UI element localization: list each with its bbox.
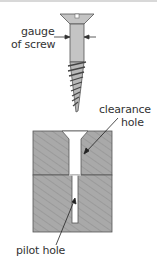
screw-icon xyxy=(60,14,94,112)
clearance-label-line2: hole xyxy=(121,117,144,129)
gauge-label-line2: of screw xyxy=(11,39,55,51)
pilot-hole-label: pilot hole xyxy=(16,245,65,257)
gauge-label-line1: gauge xyxy=(21,26,54,38)
clearance-label-line1: clearance xyxy=(99,104,151,116)
upper-block xyxy=(33,131,112,175)
lower-block xyxy=(33,175,112,232)
